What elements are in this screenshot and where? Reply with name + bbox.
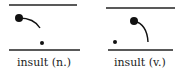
label-insult-verb: insult (v.)	[114, 56, 166, 69]
label-insult-noun: insult (n.)	[17, 56, 71, 69]
unstressed-syllable-dot	[113, 40, 117, 44]
panel-verb	[106, 8, 175, 50]
stressed-syllable-dot	[15, 14, 23, 22]
panel-noun	[9, 5, 80, 50]
stressed-syllable-dot	[130, 17, 138, 25]
unstressed-syllable-dot	[40, 41, 44, 45]
